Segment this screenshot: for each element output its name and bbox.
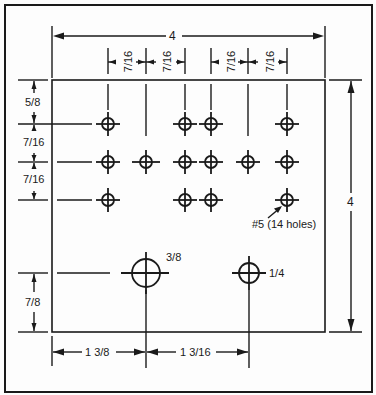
overall-width-label: 4 [168, 30, 177, 42]
row-extension-lines [18, 80, 110, 332]
hole-icon [199, 188, 223, 212]
medium-hole-icon [232, 256, 266, 290]
outer-frame [5, 5, 372, 392]
top-spacing-extensions [108, 48, 287, 74]
hole-icon [236, 150, 260, 174]
hole-icon [96, 188, 120, 212]
spacing-label: 7/16 [265, 50, 276, 73]
overall-height-label: 4 [346, 196, 355, 208]
large-hole-icon [121, 252, 169, 294]
medium-hole-label: 1/4 [268, 268, 285, 279]
top-offset-label: 5/8 [24, 97, 41, 108]
hole-icon [173, 112, 197, 136]
arrow-right-icon [313, 33, 324, 40]
bottom-dimension [52, 290, 249, 368]
hole-icon [173, 150, 197, 174]
small-hole-note: #5 (14 holes) [251, 219, 317, 230]
leader-arrow-icon [268, 206, 282, 218]
spacing-label: 7/16 [123, 50, 134, 73]
bottom-offset-label: 7/8 [24, 297, 41, 308]
spacing-label: 7/16 [226, 50, 237, 73]
row-spacing-label: 7/16 [22, 174, 45, 185]
hole-icon [132, 150, 160, 174]
bottom-left-label: 1 3/8 [84, 347, 110, 358]
top-spacing-arrows [108, 60, 287, 65]
small-holes [96, 112, 299, 212]
arrow-left-icon [53, 33, 64, 40]
bottom-right-label: 1 3/16 [179, 347, 212, 358]
hole-icon [173, 188, 197, 212]
hole-icon [96, 112, 120, 136]
diagram-drawing [0, 0, 376, 395]
hole-icon [199, 150, 223, 174]
left-dimension-arrows [32, 81, 37, 331]
large-hole-label: 3/8 [165, 252, 182, 263]
column-centerlines [108, 84, 287, 136]
spacing-label: 7/16 [162, 50, 173, 73]
row-spacing-label: 7/16 [22, 137, 45, 148]
hole-icon [199, 112, 223, 136]
drilling-diagram: 4 7/16 7/16 7/16 7/16 5/8 7/16 7/16 7/8 … [0, 0, 376, 395]
hole-icon [275, 150, 299, 174]
hole-icon [96, 150, 120, 174]
hole-icon [275, 112, 299, 136]
